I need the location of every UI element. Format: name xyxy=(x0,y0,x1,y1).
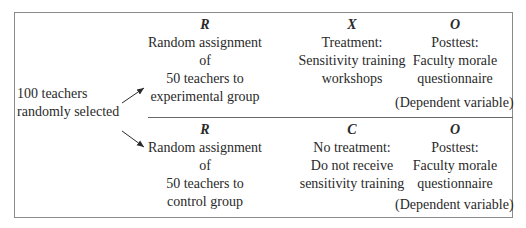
arrow-to-control-icon xyxy=(122,131,144,147)
symbol-r: R xyxy=(143,16,267,34)
text-line: Faculty morale xyxy=(400,157,510,175)
text-line: Posttest: xyxy=(400,34,510,52)
text-line: Posttest: xyxy=(400,139,510,157)
text-line: Random assignment xyxy=(143,34,267,52)
symbol-r: R xyxy=(143,121,267,139)
text-line: of xyxy=(143,157,267,175)
control-dependent-variable-note: (Dependent variable) xyxy=(395,196,514,214)
text-line: questionnaire xyxy=(400,70,510,88)
experimental-dependent-variable-note: (Dependent variable) xyxy=(395,94,514,112)
control-assignment: R Random assignment of 50 teachers to co… xyxy=(143,121,267,211)
arrow-to-experimental-icon xyxy=(122,88,144,103)
text-line: of xyxy=(143,52,267,70)
control-posttest: O Posttest: Faculty morale questionnaire xyxy=(400,121,510,193)
text-line: control group xyxy=(143,193,267,211)
text-line: 50 teachers to xyxy=(143,70,267,88)
text-line: Random assignment xyxy=(143,139,267,157)
text-line: questionnaire xyxy=(400,175,510,193)
text-line: experimental group xyxy=(143,88,267,106)
symbol-o: O xyxy=(400,16,510,34)
experimental-assignment: R Random assignment of 50 teachers to ex… xyxy=(143,16,267,106)
symbol-o: O xyxy=(400,121,510,139)
text-line: 50 teachers to xyxy=(143,175,267,193)
experimental-posttest: O Posttest: Faculty morale questionnaire xyxy=(400,16,510,88)
text-line: Faculty morale xyxy=(400,52,510,70)
